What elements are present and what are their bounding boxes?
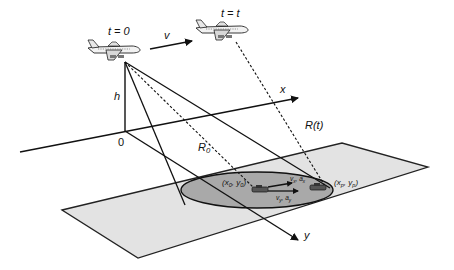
aircraft-t0-label: t = 0 [108,26,130,37]
aircraft-t0-icon [88,40,140,60]
velocity-arrow [150,41,192,49]
slant-range-r0-line [125,62,256,190]
vx-d: x [303,179,305,184]
x-axis-label: x [280,84,286,95]
vy-ay-label: vy, ay [276,195,291,204]
sar-geometry-diagram [0,0,454,270]
y-axis-label: y [304,230,310,241]
te-e: ) [355,178,358,187]
vy-d: y [289,198,291,203]
target-start-label: (x0, y0) [222,179,246,189]
vx-ax-label: vx, ax [290,176,305,185]
aircraft-tt-label: t = t [221,8,240,19]
vx-c: , a [296,175,303,182]
te-c: , y [344,178,352,187]
ts-c: , y [232,178,240,187]
r0-main: R [198,141,206,153]
vy-c: , a [282,194,289,201]
target-end-label: (xp, yp) [334,179,358,189]
r0-sub: 0 [206,146,210,155]
ts-e: ) [243,178,246,187]
origin-label: 0 [118,137,124,148]
beam-edge-near [125,62,185,205]
aircraft-tt-icon [196,20,248,40]
te-a: (x [334,178,341,187]
height-label: h [114,91,120,102]
slant-range-rt-label: R(t) [305,120,323,131]
velocity-label: v [164,30,170,41]
slant-range-r0-label: R0 [198,142,210,155]
ts-a: (x [222,178,229,187]
